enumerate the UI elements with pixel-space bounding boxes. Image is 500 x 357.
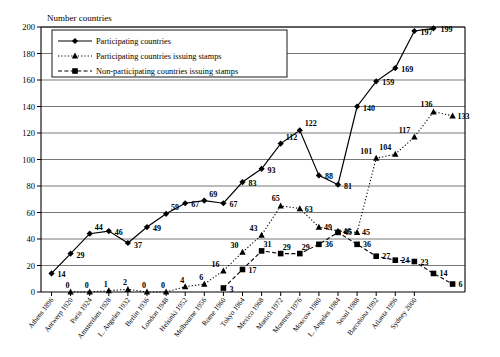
data-label: 169 (401, 65, 413, 74)
ytick-label: 200 (22, 22, 35, 32)
data-label: 37 (134, 241, 142, 250)
olympics-stamps-line-chart: 020406080100120140160180200Number countr… (0, 0, 500, 357)
data-label: 29 (77, 251, 85, 260)
data-label: 29 (302, 243, 310, 252)
ytick-label: 100 (22, 155, 35, 165)
data-label: 46 (115, 228, 123, 237)
data-label: 36 (363, 240, 371, 249)
data-label: 45 (362, 228, 370, 237)
data-label: 45 (344, 228, 352, 237)
data-label: 67 (229, 200, 237, 209)
y-axis-title: Number countries (47, 13, 112, 23)
marker-square (412, 259, 418, 265)
data-label: 159 (382, 78, 394, 87)
marker-square (335, 230, 341, 236)
legend-label-1: Participating countries (96, 37, 171, 46)
data-label: 83 (248, 179, 256, 188)
data-label: 6 (459, 280, 463, 289)
marker-square (297, 251, 303, 257)
data-label: 69 (209, 190, 217, 199)
marker-triangle (239, 249, 245, 255)
data-label: 16 (211, 260, 219, 269)
data-label: 36 (325, 240, 333, 249)
data-label: 23 (420, 258, 428, 267)
series-3: 317312929364536272423146 (221, 228, 463, 294)
marker-triangle (449, 112, 455, 118)
data-label: 136 (420, 100, 432, 109)
marker-diamond (316, 172, 322, 178)
marker-diamond (201, 197, 207, 203)
marker-diamond (335, 182, 341, 188)
data-label: 3 (229, 285, 233, 294)
data-label: 27 (382, 252, 390, 261)
data-label: 14 (58, 270, 66, 279)
data-label: 101 (360, 147, 372, 156)
data-label: 43 (250, 224, 258, 233)
data-label: 88 (325, 172, 333, 181)
marker-diamond (182, 200, 188, 206)
marker-diamond (106, 228, 112, 234)
legend-label-3: Non-participating countries issuing stam… (96, 67, 238, 76)
ytick-label: 40 (27, 234, 36, 244)
data-label: 44 (95, 223, 103, 232)
marker-square (221, 285, 227, 291)
data-label: 0 (142, 281, 146, 290)
data-label: 59 (171, 203, 179, 212)
data-label: 24 (401, 256, 409, 265)
marker-square (240, 267, 246, 273)
marker-square (431, 271, 437, 277)
marker-square (373, 253, 379, 259)
marker-square (450, 281, 456, 287)
data-label: 1 (104, 280, 108, 289)
data-label: 122 (305, 119, 317, 128)
data-label: 29 (283, 243, 291, 252)
data-label: 31 (264, 240, 272, 249)
data-label: 0 (66, 281, 70, 290)
ytick-label: 140 (22, 102, 35, 112)
marker-triangle (258, 232, 264, 238)
ytick-label: 20 (27, 261, 36, 271)
series-line (71, 112, 453, 292)
series-line (223, 232, 452, 288)
marker-square (354, 242, 360, 248)
data-label: 0 (161, 281, 165, 290)
marker-triangle (373, 155, 379, 161)
ytick-label: 120 (22, 128, 35, 138)
data-label: 117 (399, 126, 411, 135)
chart-container: 020406080100120140160180200Number countr… (0, 0, 500, 357)
data-label: 133 (458, 112, 470, 121)
data-label: 0 (85, 281, 89, 290)
marker-triangle (411, 134, 417, 140)
marker-triangle (297, 205, 303, 211)
legend-label-2: Participating countries issuing stamps (96, 52, 222, 61)
ytick-label: 180 (22, 49, 35, 59)
data-label: 199 (440, 25, 452, 34)
marker-square (259, 248, 265, 254)
data-label: 81 (344, 182, 352, 191)
data-label: 49 (153, 224, 161, 233)
ytick-label: 160 (22, 75, 35, 85)
data-label: 49 (324, 223, 332, 232)
data-label: 65 (272, 194, 280, 203)
data-label: 140 (363, 104, 375, 113)
data-label: 17 (248, 266, 256, 275)
data-label: 197 (420, 28, 432, 37)
marker-square (316, 242, 322, 248)
legend-marker-square (72, 68, 78, 74)
marker-triangle (277, 202, 283, 208)
marker-square (392, 257, 398, 263)
chart-legend: Participating countriesParticipating cou… (52, 30, 287, 77)
data-label: 63 (305, 205, 313, 214)
marker-triangle (430, 108, 436, 114)
data-label: 104 (379, 143, 391, 152)
data-label: 2 (123, 278, 127, 287)
ytick-label: 60 (27, 208, 36, 218)
data-label: 14 (439, 269, 447, 278)
data-label: 6 (199, 273, 203, 282)
ytick-label: 80 (27, 181, 36, 191)
data-label: 112 (286, 133, 298, 142)
data-label: 4 (180, 276, 184, 285)
data-label: 67 (191, 200, 199, 209)
data-label: 93 (268, 166, 276, 175)
marker-triangle (220, 267, 226, 273)
